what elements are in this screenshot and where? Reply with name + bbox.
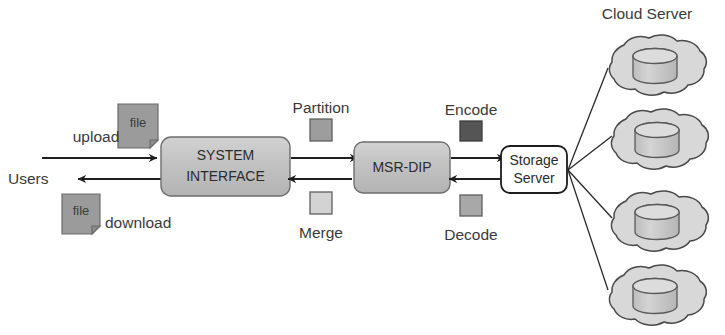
storage-server-node[interactable]: Storage Server [501,146,567,193]
decode-swatch [460,195,482,216]
decode-label: Decode [444,226,497,243]
partition-swatch [310,119,332,141]
download-label: download [105,214,171,231]
system-interface-line1: SYSTEM [197,147,255,163]
system-interface-node[interactable]: SYSTEM INTERFACE [161,137,290,196]
users-label: Users [8,170,49,187]
download-file-label: file [73,203,90,218]
system-interface-line2: INTERFACE [186,168,265,184]
cloud-connector-lines [568,68,612,290]
upload-file-icon: file [118,104,158,148]
upload-file-label: file [130,115,147,130]
merge-swatch [310,192,332,214]
diagram-canvas: file upload Users file download SYSTEM I… [0,0,725,335]
cloud-1[interactable] [609,35,706,95]
merge-label: Merge [299,224,343,241]
storage-server-line2: Server [513,170,555,186]
system-architecture-diagram: file upload Users file download SYSTEM I… [0,0,725,335]
encode-swatch [460,121,482,141]
cloud-3[interactable] [611,191,708,251]
upload-label: upload [73,128,120,145]
encode-label: Encode [445,101,498,118]
cloud-2[interactable] [611,109,708,169]
download-file-icon: file [62,194,100,234]
cloud-4-database-icon [633,279,677,314]
storage-server-line1: Storage [509,152,558,168]
cloud-3-database-icon [635,205,679,240]
msr-dip-title: MSR-DIP [372,159,431,175]
msr-dip-node[interactable]: MSR-DIP [354,142,450,193]
cloud-4[interactable] [609,265,706,325]
partition-label: Partition [293,99,350,116]
cloud-server-label: Cloud Server [602,5,692,22]
cloud-2-database-icon [635,123,679,158]
cloud-1-database-icon [633,49,677,84]
